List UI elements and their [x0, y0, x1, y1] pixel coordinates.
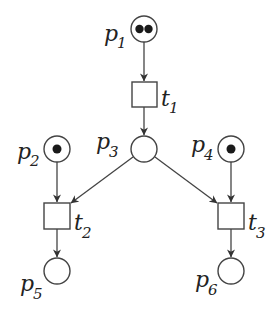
transition-box — [44, 203, 70, 229]
place-p4: p4 — [191, 132, 244, 164]
place-circle — [131, 16, 157, 42]
place-p2: p2 — [17, 136, 70, 170]
arc-p3-t2 — [71, 157, 133, 203]
transition-label: t3 — [248, 210, 266, 242]
place-label: p5 — [20, 271, 43, 303]
transition-t3: t3 — [218, 203, 266, 242]
place-p5: p5 — [20, 258, 70, 303]
transition-box — [218, 203, 244, 229]
place-circle — [44, 258, 70, 284]
place-label: p6 — [195, 267, 218, 299]
transition-box — [132, 82, 157, 107]
place-circle — [218, 258, 244, 284]
transition-label: t2 — [74, 210, 92, 242]
token-dot — [227, 145, 236, 154]
token-dot — [144, 25, 152, 33]
place-label: p1 — [104, 21, 127, 52]
token-dot — [135, 25, 143, 33]
transition-t2: t2 — [44, 203, 92, 242]
petri-net-diagram: p1 p2 p3 p4 p5 p6 t1 t2 t3 — [0, 0, 274, 316]
transition-t1: t1 — [132, 82, 179, 117]
transition-label: t1 — [161, 86, 179, 117]
place-p6: p6 — [195, 258, 244, 299]
place-p1: p1 — [104, 16, 157, 52]
token-dot — [53, 145, 62, 154]
place-label: p4 — [191, 132, 214, 164]
place-label: p3 — [96, 129, 119, 161]
place-label: p2 — [17, 139, 40, 170]
place-p3: p3 — [96, 129, 157, 162]
place-circle — [131, 136, 157, 162]
